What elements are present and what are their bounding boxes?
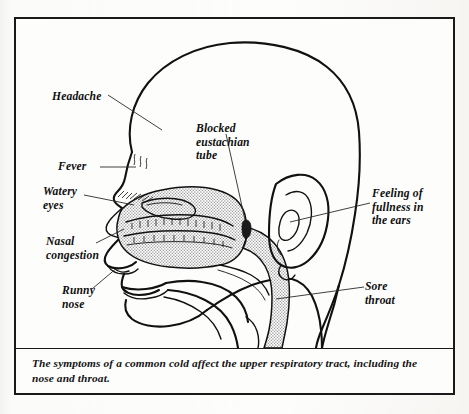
figure-root: Headache Fever Watery eyes Nasal congest… (0, 0, 469, 414)
label-feeling-of-fullness-in-the-ears: Feeling of fullness in the ears (372, 187, 424, 228)
label-headache: Headache (52, 90, 102, 104)
label-nasal-congestion: Nasal congestion (46, 235, 99, 262)
figure-caption: The symptoms of a common cold affect the… (32, 356, 432, 386)
label-sore-throat: Sore throat (365, 280, 395, 307)
caption-divider-rule (14, 348, 455, 349)
label-watery-eyes: Watery eyes (43, 185, 77, 212)
label-fever: Fever (58, 160, 86, 174)
label-runny-nose: Runny nose (62, 284, 95, 311)
label-blocked-eustachian-tube: Blocked eustachian tube (196, 122, 250, 163)
